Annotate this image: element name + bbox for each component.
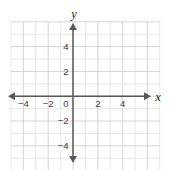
x-axis-tick-label: −2 — [43, 98, 54, 109]
coordinate-plane-figure: −4−202442−2−4 xy — [0, 0, 172, 170]
x-axis-tick-label: −4 — [18, 98, 29, 109]
coordinate-plane-canvas: −4−202442−2−4 xy — [0, 0, 172, 170]
y-axis-negative-arrowhead — [69, 156, 77, 163]
y-axis-positive-arrowhead — [69, 23, 77, 30]
x-axis-tick-label: 4 — [120, 98, 125, 109]
x-axis-tick-label: 0 — [63, 98, 68, 109]
x-axis-tick-label: 2 — [95, 98, 100, 109]
y-axis-name-label: y — [69, 7, 77, 21]
y-axis-tick-label: 2 — [63, 66, 68, 77]
axis-layer — [8, 23, 151, 163]
y-axis-tick-label: 4 — [63, 41, 68, 52]
x-axis-negative-arrowhead — [8, 92, 15, 100]
y-axis-tick-label: −2 — [58, 115, 69, 126]
y-axis-tick-label: −4 — [58, 140, 69, 151]
x-axis-name-label: x — [154, 90, 161, 104]
